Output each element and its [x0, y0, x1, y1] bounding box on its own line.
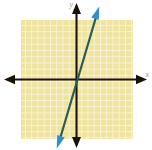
x-axis-left-arrowhead — [4, 75, 15, 84]
y-axis-label: y — [68, 0, 73, 9]
y-axis-bottom-arrowhead — [72, 137, 81, 148]
y-axis-top-arrowhead — [72, 3, 81, 14]
plotted-line-end-arrowhead — [91, 7, 99, 20]
coordinate-plane-figure: y x — [0, 0, 152, 150]
x-axis-label: x — [144, 70, 149, 79]
graph-canvas: y x — [0, 0, 152, 150]
plotted-line-start-arrowhead — [57, 135, 65, 148]
